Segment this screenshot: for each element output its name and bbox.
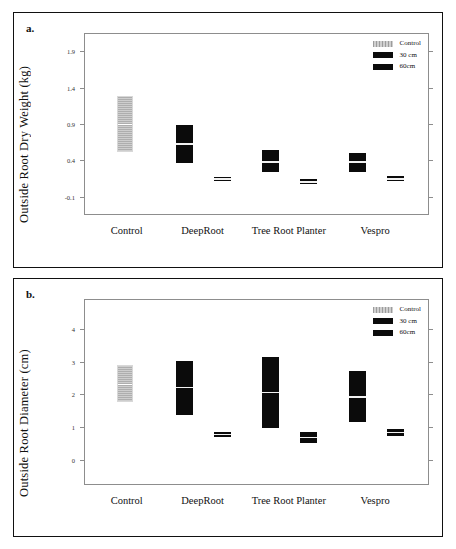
panel-a-y-axis-title: Outside Root Dry Weight (kg) (17, 31, 32, 223)
median-line (214, 434, 231, 436)
legend-item-control: Control (373, 305, 421, 314)
median-line (300, 437, 317, 439)
box-bar (387, 176, 404, 181)
median-line (349, 161, 366, 163)
box-bar (349, 371, 366, 423)
box-bar (300, 432, 317, 443)
x-axis-label: Control (111, 495, 143, 506)
panel-b-y-axis-title: Outside Root Diameter (cm) (17, 301, 32, 497)
legend-item-60cm: 60cm (373, 62, 421, 71)
legend-swatch-30cm-icon (373, 318, 393, 324)
legend-label-30cm: 30 cm (400, 317, 417, 326)
y-tick-mark-right (429, 427, 433, 428)
panel-b: b. Outside Root Diameter (cm) 43210 Cont… (13, 278, 443, 537)
legend-item-30cm: 30 cm (373, 317, 421, 326)
y-tick-label: 0 (72, 457, 75, 464)
box-bar (214, 432, 231, 438)
y-tick-label: 2 (72, 391, 75, 398)
box-bar (117, 96, 133, 152)
x-axis-label: Control (111, 225, 143, 236)
box-bar (214, 177, 231, 181)
panel-b-label: b. (26, 288, 35, 300)
y-tick-label: 3 (72, 358, 75, 365)
figure-root: a. Outside Root Dry Weight (kg) 1.91.40.… (0, 0, 456, 549)
x-axis-label: Tree Root Planter (252, 495, 326, 506)
x-axis-label: Vespro (360, 495, 389, 506)
median-line (118, 384, 132, 386)
y-tick-mark-right (429, 197, 433, 198)
panel-a-legend: Control 30 cm 60cm (373, 39, 421, 74)
y-tick-mark-right (429, 124, 433, 125)
y-tick-label: 0.4 (67, 157, 75, 164)
panel-a: a. Outside Root Dry Weight (kg) 1.91.40.… (13, 12, 443, 268)
legend-item-60cm: 60cm (373, 328, 421, 337)
panel-b-legend: Control 30 cm 60cm (373, 305, 421, 340)
median-line (262, 161, 279, 163)
median-line (176, 387, 193, 389)
x-axis-label: DeepRoot (181, 495, 224, 506)
median-line (387, 432, 404, 434)
legend-label-60cm: 60cm (400, 62, 416, 71)
box-bar (262, 150, 279, 173)
legend-swatch-control-icon (373, 307, 393, 313)
box-bar (300, 179, 317, 184)
legend-swatch-60cm-icon (373, 64, 393, 70)
box-bar (387, 429, 404, 436)
y-tick-label: 0.9 (67, 121, 75, 128)
legend-item-30cm: 30 cm (373, 51, 421, 60)
panel-a-plot-area: Control 30 cm 60cm (84, 33, 429, 215)
y-tick-label: 1.9 (67, 48, 75, 55)
legend-label-control: Control (400, 305, 421, 314)
legend-label-60cm: 60cm (400, 328, 416, 337)
legend-label-30cm: 30 cm (400, 51, 417, 60)
x-axis-label: Vespro (360, 225, 389, 236)
box-bar (349, 153, 366, 172)
legend-swatch-30cm-icon (373, 52, 393, 58)
x-axis-label: Tree Root Planter (252, 225, 326, 236)
box-bar (176, 125, 193, 163)
legend-label-control: Control (400, 39, 421, 48)
median-line (176, 143, 193, 145)
y-tick-mark-right (429, 51, 433, 52)
y-tick-mark-right (429, 88, 433, 89)
median-line (349, 396, 366, 398)
legend-swatch-control-icon (373, 41, 393, 47)
median-line (214, 178, 231, 180)
x-axis-label: DeepRoot (181, 225, 224, 236)
legend-swatch-60cm-icon (373, 330, 393, 336)
y-tick-mark-right (429, 160, 433, 161)
y-tick-label: 1 (72, 424, 75, 431)
y-tick-label: 4 (72, 325, 75, 332)
median-line (300, 181, 317, 183)
median-line (118, 124, 132, 126)
y-tick-label: -0.1 (65, 193, 75, 200)
median-line (262, 392, 279, 394)
y-tick-mark-right (429, 460, 433, 461)
box-bar (176, 361, 193, 415)
median-line (387, 178, 404, 180)
y-tick-mark-right (429, 329, 433, 330)
y-tick-label: 1.4 (67, 84, 75, 91)
box-bar (262, 357, 279, 427)
panel-b-plot-area: Control 30 cm 60cm (84, 299, 429, 485)
box-bar (117, 365, 133, 402)
y-tick-mark-right (429, 362, 433, 363)
legend-item-control: Control (373, 39, 421, 48)
y-tick-mark-right (429, 394, 433, 395)
